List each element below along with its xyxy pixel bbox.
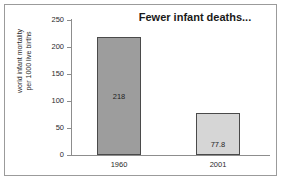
y-axis-tick-label: 250 — [38, 16, 64, 23]
bar-value-label: 218 — [98, 92, 140, 101]
y-axis-tick — [67, 155, 72, 156]
x-axis-label-1960: 1960 — [84, 160, 154, 169]
y-axis-tick-label: 100 — [38, 97, 64, 104]
y-axis-title: world infant mortality per 1000 live bir… — [15, 1, 33, 121]
bar-1960: 218 — [97, 37, 141, 155]
x-axis-label-2001: 2001 — [183, 160, 253, 169]
y-axis-tick-label: 200 — [38, 43, 64, 50]
bar-2001: 77.8 — [196, 113, 240, 155]
y-axis-tick-label: 150 — [38, 70, 64, 77]
bar-value-label: 77.8 — [197, 140, 239, 149]
y-axis-tick-label: 0 — [38, 151, 64, 158]
y-axis-title-line-1: world infant mortality — [15, 1, 24, 121]
y-axis-tick-label: 50 — [38, 124, 64, 131]
chart-figure: Fewer infant deaths... world infant mort… — [0, 0, 284, 187]
y-axis-title-line-2: per 1000 live births — [24, 1, 33, 121]
plot-area: 21877.8 — [72, 20, 270, 155]
x-axis-spine — [71, 155, 270, 156]
